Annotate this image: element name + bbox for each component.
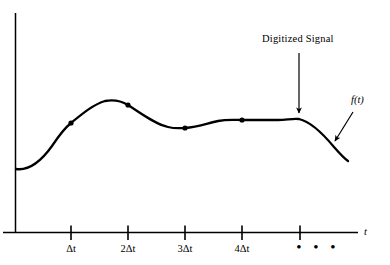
sample-point	[125, 102, 130, 107]
x-tick-label-4-text: Δt	[240, 243, 250, 254]
function-label-arrow	[335, 112, 353, 141]
sample-point	[68, 120, 73, 125]
sample-point	[182, 125, 187, 130]
x-tick-label-2: 2Δt	[121, 244, 136, 255]
x-axis-ellipsis: • • •	[296, 240, 339, 255]
function-label: f(t)	[351, 95, 364, 106]
signal-curve	[16, 100, 348, 169]
x-tick-label-4: 4Δt	[235, 244, 250, 255]
x-tick-label-2-text: Δt	[126, 243, 136, 254]
x-tick-label-3: 3Δt	[178, 244, 193, 255]
x-tick-label-1-text: Δt	[66, 243, 76, 254]
x-axis-label: t	[364, 227, 367, 238]
digitized-signal-label: Digitized Signal	[262, 34, 334, 45]
sample-point	[239, 117, 244, 122]
figure-canvas: Δt 2Δt 3Δt 4Δt • • • t Digitized Signal …	[0, 0, 390, 265]
x-tick-label-3-text: Δt	[183, 243, 193, 254]
x-tick-label-1: Δt	[66, 244, 76, 255]
